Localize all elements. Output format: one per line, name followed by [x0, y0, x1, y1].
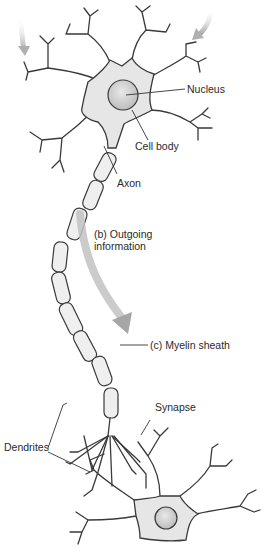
myelin-sheath-label: (c) Myelin sheath	[150, 339, 230, 351]
axon-label: Axon	[117, 177, 141, 189]
myelin-segments	[50, 150, 118, 418]
cell-body-label: Cell body	[135, 140, 179, 152]
dendrites-label: Dendrites	[4, 441, 49, 453]
incoming-arrow-right-icon	[192, 8, 212, 40]
axon-terminals	[66, 418, 146, 496]
nucleus-label: Nucleus	[187, 83, 225, 95]
synapse-label: Synapse	[155, 401, 196, 413]
incoming-arrow-left-icon	[18, 18, 30, 56]
outgoing-information-label-line2: information	[94, 240, 146, 252]
neuron-diagram	[0, 0, 269, 556]
outgoing-information-label-line1: (b) Outgoing	[94, 228, 152, 240]
lower-nucleus	[155, 507, 177, 529]
upper-nucleus	[108, 80, 138, 110]
